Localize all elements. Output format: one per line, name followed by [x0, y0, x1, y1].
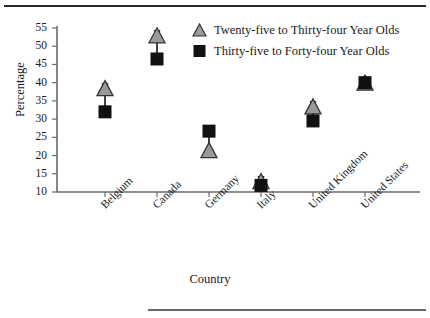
- y-tick-label: 20: [21, 150, 47, 162]
- y-tick-label: 40: [21, 77, 47, 89]
- data-point-triangle: [97, 81, 113, 96]
- data-point-triangle: [305, 99, 321, 114]
- data-point-square: [307, 114, 320, 127]
- legend-label-older: Thirty-five to Forty-four Year Olds: [214, 44, 389, 59]
- y-tick-label: 15: [21, 168, 47, 180]
- y-tick-label: 35: [21, 95, 47, 107]
- y-tick-label: 50: [21, 40, 47, 52]
- chart-figure: Percentage Country 10152025303540455055 …: [0, 0, 430, 318]
- triangle-icon: [192, 23, 207, 38]
- data-point-square: [359, 76, 372, 89]
- data-point-triangle: [201, 143, 217, 158]
- y-tick-label: 55: [21, 22, 47, 34]
- data-point-square: [99, 105, 112, 118]
- y-tick-label: 45: [21, 58, 47, 70]
- legend-label-young: Twenty-five to Thirty-four Year Olds: [214, 23, 399, 38]
- data-point-square: [151, 52, 164, 65]
- square-icon: [192, 44, 207, 59]
- chart-legend: Twenty-five to Thirty-four Year Olds Thi…: [192, 21, 399, 60]
- legend-item-young: Twenty-five to Thirty-four Year Olds: [192, 21, 399, 39]
- legend-item-older: Thirty-five to Forty-four Year Olds: [192, 42, 399, 60]
- data-point-square: [203, 125, 216, 138]
- x-axis-title: Country: [150, 272, 270, 287]
- data-point-triangle: [149, 28, 165, 43]
- y-tick-label: 25: [21, 131, 47, 143]
- y-tick-label: 10: [21, 186, 47, 198]
- y-tick-label: 30: [21, 113, 47, 125]
